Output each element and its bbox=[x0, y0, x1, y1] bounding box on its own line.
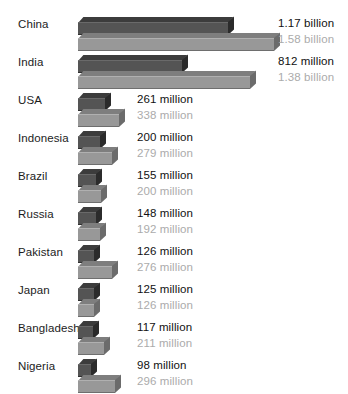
primary-bar bbox=[78, 17, 228, 31]
secondary-bar bbox=[78, 109, 119, 123]
primary-bar bbox=[78, 207, 96, 221]
secondary-value-label: 1.38 billion bbox=[278, 71, 334, 83]
secondary-bar-end-cap bbox=[112, 147, 118, 165]
secondary-value-label: 296 million bbox=[137, 375, 193, 387]
bar-row: Indonesia200 million279 million bbox=[0, 128, 348, 166]
secondary-bar-front-face bbox=[78, 114, 119, 127]
bar-row: Bangladesh117 million211 million bbox=[0, 318, 348, 356]
country-label: Nigeria bbox=[0, 360, 72, 372]
primary-value-label: 148 million bbox=[137, 207, 193, 219]
bar-row: Japan125 million126 million bbox=[0, 280, 348, 318]
primary-value-label: 812 million bbox=[278, 55, 334, 67]
secondary-bar-front-face bbox=[78, 380, 115, 393]
secondary-bar bbox=[78, 185, 101, 199]
secondary-bar bbox=[78, 147, 112, 161]
primary-bar bbox=[78, 93, 105, 107]
bar-row: USA261 million338 million bbox=[0, 90, 348, 128]
country-label: Japan bbox=[0, 284, 72, 296]
country-label: India bbox=[0, 56, 72, 68]
secondary-bar-end-cap bbox=[112, 261, 118, 279]
secondary-bar-end-cap bbox=[101, 185, 107, 203]
secondary-value-label: 192 million bbox=[137, 223, 193, 235]
secondary-bar bbox=[78, 261, 112, 275]
country-label: Pakistan bbox=[0, 246, 72, 258]
secondary-bar bbox=[78, 33, 274, 47]
bar-row: Nigeria98 million296 million bbox=[0, 356, 348, 394]
country-label: Indonesia bbox=[0, 132, 72, 144]
secondary-bar-front-face bbox=[78, 76, 250, 89]
primary-value-label: 98 million bbox=[137, 359, 187, 371]
secondary-bar bbox=[78, 375, 115, 389]
primary-value-label: 117 million bbox=[137, 321, 192, 333]
primary-value-label: 261 million bbox=[137, 93, 193, 105]
secondary-bar-front-face bbox=[78, 266, 112, 279]
primary-value-label: 1.17 billion bbox=[278, 17, 334, 29]
secondary-bar-end-cap bbox=[100, 223, 106, 241]
secondary-value-label: 1.58 billion bbox=[278, 33, 334, 45]
secondary-bar bbox=[78, 337, 104, 351]
country-label: Bangladesh bbox=[0, 322, 72, 334]
primary-bar bbox=[78, 283, 94, 297]
country-label: Brazil bbox=[0, 170, 72, 182]
secondary-value-label: 126 million bbox=[137, 299, 193, 311]
secondary-bar bbox=[78, 299, 94, 313]
secondary-bar-front-face bbox=[78, 190, 101, 203]
primary-bar bbox=[78, 245, 94, 259]
secondary-bar bbox=[78, 223, 100, 237]
primary-bar bbox=[78, 359, 91, 373]
primary-value-label: 155 million bbox=[137, 169, 193, 181]
secondary-value-label: 200 million bbox=[137, 185, 193, 197]
primary-bar bbox=[78, 169, 96, 183]
secondary-bar-front-face bbox=[78, 304, 94, 317]
country-label: Russia bbox=[0, 208, 72, 220]
primary-bar bbox=[78, 55, 182, 69]
secondary-bar-end-cap bbox=[104, 337, 110, 355]
primary-value-label: 126 million bbox=[137, 245, 193, 257]
secondary-bar-front-face bbox=[78, 38, 274, 51]
primary-value-label: 200 million bbox=[137, 131, 193, 143]
secondary-bar-front-face bbox=[78, 152, 112, 165]
secondary-value-label: 211 million bbox=[137, 337, 192, 349]
country-label: China bbox=[0, 18, 72, 30]
primary-bar bbox=[78, 131, 100, 145]
secondary-bar-front-face bbox=[78, 342, 104, 355]
bar-row: Russia148 million192 million bbox=[0, 204, 348, 242]
country-label: USA bbox=[0, 94, 72, 106]
secondary-value-label: 338 million bbox=[137, 109, 193, 121]
secondary-bar-front-face bbox=[78, 228, 100, 241]
primary-bar bbox=[78, 321, 93, 335]
secondary-bar-end-cap bbox=[94, 299, 100, 317]
bar-row: Pakistan126 million276 million bbox=[0, 242, 348, 280]
secondary-bar bbox=[78, 71, 250, 85]
primary-value-label: 125 million bbox=[137, 283, 193, 295]
secondary-value-label: 276 million bbox=[137, 261, 193, 273]
bar-row: Brazil155 million200 million bbox=[0, 166, 348, 204]
bar-row: India812 million1.38 billion bbox=[0, 52, 348, 90]
bar-row: China1.17 billion1.58 billion bbox=[0, 14, 348, 52]
secondary-bar-end-cap bbox=[119, 109, 125, 127]
secondary-bar-end-cap bbox=[115, 375, 121, 393]
secondary-value-label: 279 million bbox=[137, 147, 193, 159]
secondary-bar-end-cap bbox=[250, 71, 256, 89]
